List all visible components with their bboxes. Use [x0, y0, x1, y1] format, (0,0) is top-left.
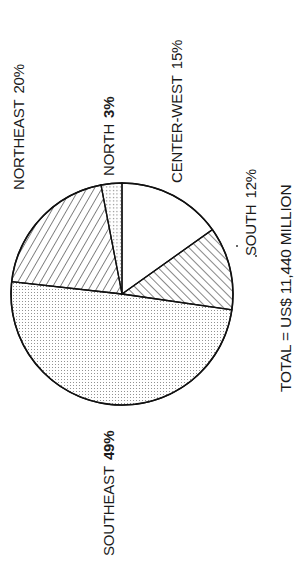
south-marker-dot-2	[236, 245, 238, 247]
label-northeast: NORTHEAST20%	[11, 64, 26, 190]
label-southeast-pct: 49%	[100, 431, 117, 460]
pie-slices	[11, 183, 233, 405]
pie-chart	[0, 0, 297, 572]
label-north: NORTH3%	[101, 97, 116, 176]
label-north-pct: 3%	[100, 97, 117, 118]
label-center-west: CENTER-WEST15%	[169, 40, 184, 183]
label-center-west-pct: 15%	[168, 40, 185, 69]
label-south-pct: 12%	[242, 169, 259, 198]
label-center-west-name: CENTER-WEST	[168, 75, 185, 183]
label-north-name: NORTH	[100, 124, 117, 176]
label-south-name: SOUTH	[242, 204, 259, 256]
label-southeast-name: SOUTHEAST	[100, 466, 117, 556]
total-label: TOTAL = US$ 11,440 MILLION	[278, 185, 294, 392]
south-marker-dot	[255, 255, 257, 257]
total-text: TOTAL = US$ 11,440 MILLION	[277, 185, 294, 392]
label-southeast: SOUTHEAST49%	[101, 431, 116, 556]
label-northeast-name: NORTHEAST	[10, 100, 27, 190]
label-south: SOUTH12%	[243, 169, 258, 256]
label-northeast-pct: 20%	[10, 64, 27, 93]
